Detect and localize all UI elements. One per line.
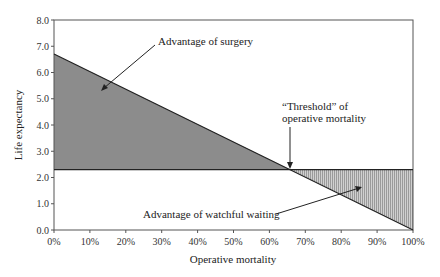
x-tick-label: 30% [153,236,171,247]
arrow-watchful-waiting [276,189,356,214]
arrowhead-threshold-icon [287,162,293,169]
chart: 0.01.02.03.04.05.06.07.08.0 0%10%20%30%4… [0,0,440,277]
arrow-surgery [104,45,155,88]
x-tick-label: 90% [368,236,386,247]
x-tick-label: 50% [224,236,242,247]
y-tick-label: 3.0 [37,146,50,157]
x-tick-label: 40% [188,236,206,247]
x-tick-label: 60% [260,236,278,247]
y-tick-label: 5.0 [37,93,50,104]
annotation-threshold-line1: “Threshold” of [282,100,349,112]
x-tick-label: 80% [332,236,350,247]
y-tick-label: 2.0 [37,172,50,183]
x-tick-label: 100% [401,236,424,247]
y-tick-label: 4.0 [37,120,50,131]
y-tick-label: 7.0 [37,41,50,52]
y-tick-label: 8.0 [37,15,50,26]
x-tick-label: 0% [47,236,60,247]
y-axis: 0.01.02.03.04.05.06.07.08.0 [37,15,55,236]
x-tick-label: 10% [81,236,99,247]
annotation-advantage-watchful-waiting: Advantage of watchful waiting [143,208,280,220]
x-axis: 0%10%20%30%40%50%60%70%80%90%100% [47,230,424,247]
annotation-threshold-line2: operative mortality [282,112,366,124]
y-tick-label: 1.0 [37,198,50,209]
x-tick-label: 20% [117,236,135,247]
y-tick-label: 0.0 [37,225,50,236]
annotation-advantage-surgery: Advantage of surgery [158,35,254,47]
x-tick-label: 70% [296,236,314,247]
y-tick-label: 6.0 [37,67,50,78]
y-axis-title: Life expectancy [12,89,24,160]
x-axis-title: Operative mortality [190,253,277,265]
